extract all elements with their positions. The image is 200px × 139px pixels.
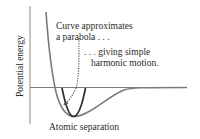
annotation-harmonic-motion: . . . giving simple harmonic motion. [84,47,159,68]
dotted-arrow [66,38,79,103]
annotation-parabola-line1: Curve approximates [56,21,133,32]
annotation-harmonic-line1: . . . giving simple [84,47,159,58]
annotation-parabola-line2: a parabola . . . [56,32,133,43]
annotation-harmonic-line2: harmonic motion. [84,58,159,69]
x-axis-label: Atomic separation [49,123,119,133]
annotation-parabola: Curve approximates a parabola . . . [56,21,133,42]
y-axis-label: Potential energy [16,35,26,97]
potential-energy-diagram: Potential energy Curve approximates a pa… [0,0,200,139]
